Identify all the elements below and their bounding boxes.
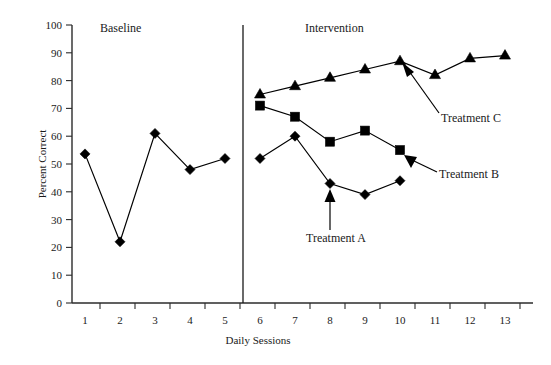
x-tick-label-2: 2 <box>117 314 123 326</box>
annotation-treatment-c-label: Treatment C <box>441 111 501 125</box>
x-axis-title: Daily Sessions <box>225 334 290 346</box>
marker-treatment-b-s8 <box>326 137 335 146</box>
annotation-treatment-a-label: Treatment A <box>306 231 366 245</box>
x-tick-label-13: 13 <box>500 314 512 326</box>
x-tick-label-10: 10 <box>395 314 407 326</box>
x-tick-label-6: 6 <box>257 314 263 326</box>
y-tick-label-40: 40 <box>51 186 63 198</box>
y-tick-label-50: 50 <box>51 158 63 170</box>
x-tick-label-9: 9 <box>362 314 368 326</box>
x-tick-label-4: 4 <box>187 314 193 326</box>
marker-treatment-b-s6 <box>256 101 265 110</box>
marker-treatment-b-s10 <box>396 146 405 155</box>
x-tick-label-8: 8 <box>327 314 333 326</box>
annotation-treatment-b-label: Treatment B <box>439 167 499 181</box>
y-tick-label-90: 90 <box>51 47 63 59</box>
y-tick-label-80: 80 <box>51 75 63 87</box>
y-tick-label-60: 60 <box>51 130 63 142</box>
marker-treatment-b-s7 <box>291 112 300 121</box>
x-tick-label-5: 5 <box>222 314 228 326</box>
y-tick-label-70: 70 <box>51 102 63 114</box>
y-tick-label-0: 0 <box>57 297 63 309</box>
x-tick-label-1: 1 <box>82 314 88 326</box>
marker-treatment-b-s9 <box>361 126 370 135</box>
y-tick-label-10: 10 <box>51 269 63 281</box>
single-case-design-chart: 0 10 20 30 40 50 60 70 80 90 100 <box>0 0 551 365</box>
phase-label-intervention: Intervention <box>305 21 364 35</box>
x-tick-label-3: 3 <box>152 314 158 326</box>
phase-label-baseline: Baseline <box>100 21 141 35</box>
y-tick-label-20: 20 <box>51 241 63 253</box>
x-tick-label-12: 12 <box>465 314 476 326</box>
y-tick-label-30: 30 <box>51 214 63 226</box>
y-axis-title: Percent Correct <box>36 130 48 199</box>
chart-canvas: 0 10 20 30 40 50 60 70 80 90 100 <box>0 0 551 365</box>
x-tick-label-11: 11 <box>430 314 441 326</box>
x-tick-label-7: 7 <box>292 314 298 326</box>
y-tick-label-100: 100 <box>46 19 63 31</box>
